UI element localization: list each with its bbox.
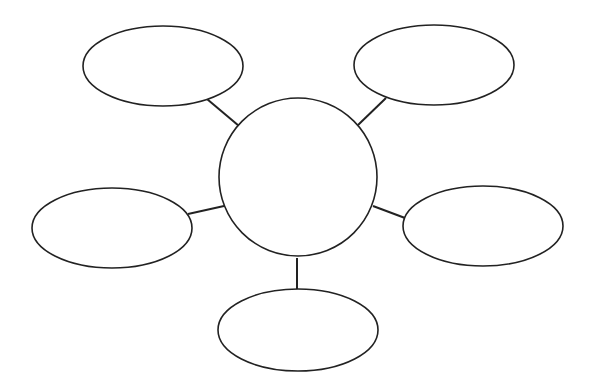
- bubble-middle-right-label: [403, 186, 563, 266]
- bubble-bottom-label: [218, 289, 378, 371]
- bubble-top-left-label: [83, 26, 243, 106]
- bubble-middle-left-label: [32, 188, 192, 268]
- bubble-top-right-label: [354, 25, 514, 105]
- center-circle-label: [219, 98, 377, 256]
- connector-middle-right: [373, 206, 405, 218]
